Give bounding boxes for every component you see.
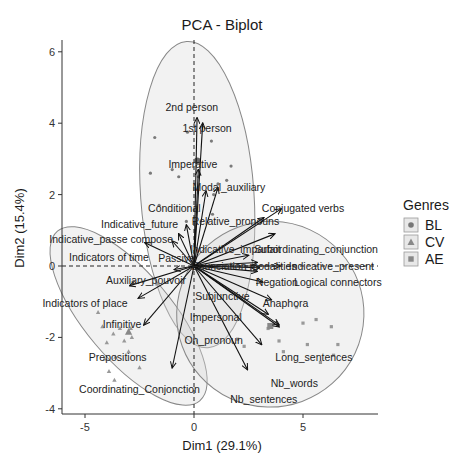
variable-label: Impersonal [190,311,242,323]
centroid-ae [267,323,273,329]
legend: Genres BL CV AE [403,197,449,267]
point-cv [112,378,116,382]
square-icon [408,256,413,261]
variable-label: Modal_auxiliary [192,181,266,193]
point-bl [185,220,188,223]
variable-label: Coordinating_Conjonction [79,383,200,395]
variable-label: 2nd person [166,101,219,113]
x-tick-label: 5 [300,421,306,433]
variable-label: Indicative_passe compose [49,233,173,245]
point-ae [301,322,304,325]
point-bl [210,139,213,142]
x-axis-label: Dim1 (29.1%) [182,438,261,453]
point-ae [336,343,339,346]
point-ae [330,325,333,328]
variable-label: Auxiliary_pouvoir [106,274,186,286]
variable-label: Nb_words [271,377,318,389]
variable-label: Enunciation modalities [192,260,297,272]
point-ae [314,318,317,321]
y-tick-label: 0 [49,260,55,272]
legend-title: Genres [403,197,449,213]
point-ae [277,339,280,342]
legend-label-ae: AE [425,251,444,267]
y-axis: -4-20246 [45,40,62,415]
legend-item-cv: CV [404,234,445,250]
x-tick-label: 0 [191,421,197,433]
y-tick-label: 2 [49,189,55,201]
variable-label: Subordinating_conjunction [254,243,378,255]
legend-item-bl: BL [404,217,442,233]
y-tick-label: -2 [45,331,55,343]
variable-label: Prepositions [89,351,147,363]
variable-label: Indicators of time [69,251,149,263]
x-axis: -505 [62,414,378,433]
variable-label: Negation [256,276,298,288]
point-bl [149,172,152,175]
variable-label: Indicators of place [42,297,127,309]
point-bl [229,164,232,167]
pca-biplot-chart: PCA - Biplot 2nd person1st personImperat… [0,0,465,475]
variable-label: Indicative_present [289,260,374,272]
variable-label: Imperative [168,158,217,170]
variable-label: Conjugated verbs [262,202,344,214]
variable-label: Long_sentences [275,351,352,363]
variable-label: Relative_pronouns [192,215,280,227]
point-cv [107,369,111,373]
chart-title: PCA - Biplot [182,16,264,33]
y-axis-label: Dim2 (15.4%) [12,188,27,267]
variable-label: Infinitive [103,318,142,330]
y-tick-label: -4 [45,403,55,415]
x-tick-label: -5 [80,421,90,433]
variable-label: Nb_sentences [230,393,297,405]
variable-label: Subjunctive [195,290,249,302]
variable-label: Conditional [148,202,201,214]
legend-item-ae: AE [404,251,444,267]
variable-label: Indicative_future [101,218,178,230]
legend-label-bl: BL [425,217,442,233]
point-bl [153,136,156,139]
variable-label: On_pronoun [184,334,243,346]
point-ae [306,343,309,346]
y-tick-label: 6 [49,46,55,58]
variable-label: Anaphora [263,297,309,309]
variable-label: Passive [158,252,195,264]
variable-label: 1st person [183,122,232,134]
point-bl [212,193,215,196]
variable-label: Logical connectors [294,276,382,288]
point-ae [243,345,246,348]
point-bl [177,175,180,178]
circle-icon [408,222,414,228]
y-tick-label: 4 [49,117,55,129]
legend-label-cv: CV [425,234,445,250]
